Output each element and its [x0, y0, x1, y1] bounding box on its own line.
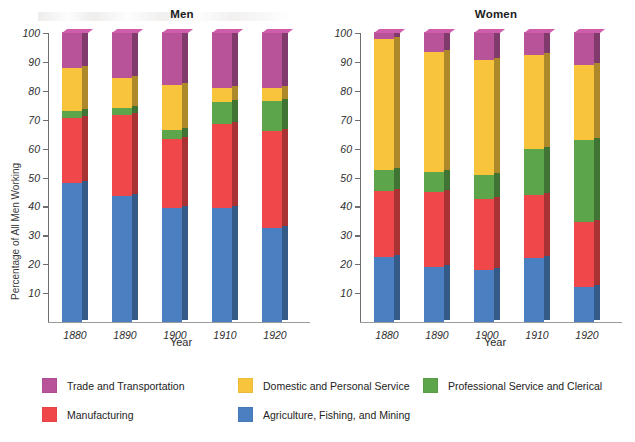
bar-segment: [162, 207, 182, 322]
bar-segment: [574, 64, 594, 140]
bar-segment-side: [182, 30, 188, 83]
bar-men-1920[interactable]: [262, 33, 288, 322]
bar-segment: [262, 131, 282, 228]
bar-top-face: [474, 29, 500, 33]
bar-segment-side: [232, 100, 238, 122]
bar-segment-side: [282, 85, 288, 99]
bar-top-face: [212, 29, 238, 33]
bar-women-1910[interactable]: [524, 33, 550, 322]
bar-top-face-shape: [212, 29, 243, 33]
bar-segment-side: [282, 129, 288, 226]
bar-segment: [524, 148, 544, 195]
bar-men-1890[interactable]: [112, 33, 138, 322]
y-tick-label: 10: [28, 287, 40, 299]
bar-top-face-shape: [474, 29, 505, 33]
bar-segment: [574, 32, 594, 64]
bar-segment-side: [132, 75, 138, 106]
bar-segment-side: [594, 137, 600, 220]
bar-segment-side: [394, 254, 400, 320]
bar-segment-side: [444, 265, 450, 321]
bar-top-face-shape: [62, 29, 93, 33]
bar-segment: [162, 129, 182, 138]
bar-top-face: [574, 29, 600, 33]
bar-top-face: [62, 29, 88, 33]
bar-segment: [424, 171, 444, 192]
bar-men-1910[interactable]: [212, 33, 238, 322]
bar-segment: [474, 199, 494, 270]
legend-label: Professional Service and Clerical: [448, 380, 602, 392]
legend-item-2[interactable]: Professional Service and Clerical: [423, 378, 602, 393]
legend-label: Agriculture, Fishing, and Mining: [263, 409, 410, 421]
bar-segment: [574, 222, 594, 288]
y-tick-label: 80: [340, 85, 352, 97]
bar-segment: [424, 32, 444, 51]
y-tick-label: 80: [28, 85, 40, 97]
bar-segment-side: [132, 106, 138, 114]
bar-segment: [162, 32, 182, 85]
legend-label: Domestic and Personal Service: [263, 380, 409, 392]
y-tick-label: 50: [340, 172, 352, 184]
bar-segment-side: [494, 172, 500, 197]
bar-top-face-shape: [112, 29, 143, 33]
bar-segment-side: [594, 30, 600, 62]
bar-segment: [262, 227, 282, 322]
bar-segment-side: [82, 181, 88, 320]
bar-women-1900[interactable]: [474, 33, 500, 322]
bar-men-1880[interactable]: [62, 33, 88, 322]
bar-segment: [62, 32, 82, 67]
bar-segment-side: [444, 189, 450, 265]
y-tick-label: 60: [340, 143, 352, 155]
bar-top-face: [112, 29, 138, 33]
bar-top-face-shape: [524, 29, 555, 33]
bar-segment: [112, 77, 132, 108]
bars-women: [360, 33, 612, 322]
bar-segment: [474, 269, 494, 322]
bar-segment-side: [544, 30, 550, 52]
bar-segment-side: [394, 36, 400, 168]
bar-top-face-shape: [574, 29, 605, 33]
bar-segment: [212, 32, 232, 88]
bar-women-1890[interactable]: [424, 33, 450, 322]
bar-segment: [424, 191, 444, 267]
bar-segment-side: [494, 197, 500, 268]
y-tick-label: 40: [28, 200, 40, 212]
bar-segment: [374, 256, 394, 322]
bar-segment-side: [444, 30, 450, 49]
bar-segment: [424, 51, 444, 172]
bar-men-1900[interactable]: [162, 33, 188, 322]
bar-top-face: [262, 29, 288, 33]
bar-segment: [112, 108, 132, 116]
x-axis-label-women: Year: [317, 336, 635, 348]
bar-top-face: [424, 29, 450, 33]
bar-segment-side: [282, 30, 288, 86]
y-tick-label: 20: [340, 258, 352, 270]
panel-men: Men Percentage of All Men Working 102030…: [0, 0, 318, 370]
bar-segment: [524, 258, 544, 322]
bar-segment-side: [182, 82, 188, 127]
bar-segment-side: [544, 192, 550, 256]
bar-segment: [374, 190, 394, 257]
legend-item-1[interactable]: Domestic and Personal Service: [238, 378, 409, 393]
y-tick-label: 20: [28, 258, 40, 270]
bar-women-1880[interactable]: [374, 33, 400, 322]
bar-top-face: [374, 29, 400, 33]
legend-item-4[interactable]: Agriculture, Fishing, and Mining: [238, 407, 410, 422]
bar-segment-side: [494, 58, 500, 173]
legend-item-0[interactable]: Trade and Transportation: [42, 378, 185, 393]
bar-segment-side: [182, 127, 188, 136]
legend-item-3[interactable]: Manufacturing: [42, 407, 134, 422]
bar-segment-side: [82, 108, 88, 116]
bar-segment-side: [594, 285, 600, 320]
bar-segment-side: [282, 225, 288, 320]
legend-swatch-icon: [238, 407, 253, 422]
bar-women-1920[interactable]: [574, 33, 600, 322]
y-tick-label: 100: [334, 27, 352, 39]
bar-segment-side: [82, 116, 88, 182]
y-tick-label: 70: [340, 114, 352, 126]
bar-segment: [474, 32, 494, 60]
bar-segment: [262, 100, 282, 131]
panel-title-men: Men: [0, 8, 318, 20]
bar-segment-side: [544, 52, 550, 147]
plot-area-men: 102030405060708090100 188018901900191019…: [48, 33, 300, 322]
bar-segment-side: [444, 169, 450, 190]
